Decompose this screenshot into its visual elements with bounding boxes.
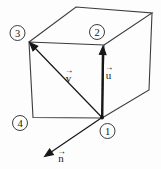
vertex-1-label: 1 [105, 126, 110, 137]
vector-n-label: n [58, 152, 64, 164]
vector-u-line [102, 51, 103, 118]
cube-vectors-figure: 1 2 3 4 → u → v → n [0, 0, 161, 169]
vertex-1-junction-dot [100, 116, 104, 120]
figure-background [0, 0, 161, 169]
vertex-4-label: 4 [17, 118, 23, 129]
vector-u-label: u [106, 69, 112, 81]
diagram-canvas: 1 2 3 4 → u → v → n [0, 0, 161, 169]
vector-v-label: v [66, 72, 72, 84]
vertex-2-label: 2 [94, 27, 99, 38]
vertex-3-label: 3 [15, 28, 20, 39]
